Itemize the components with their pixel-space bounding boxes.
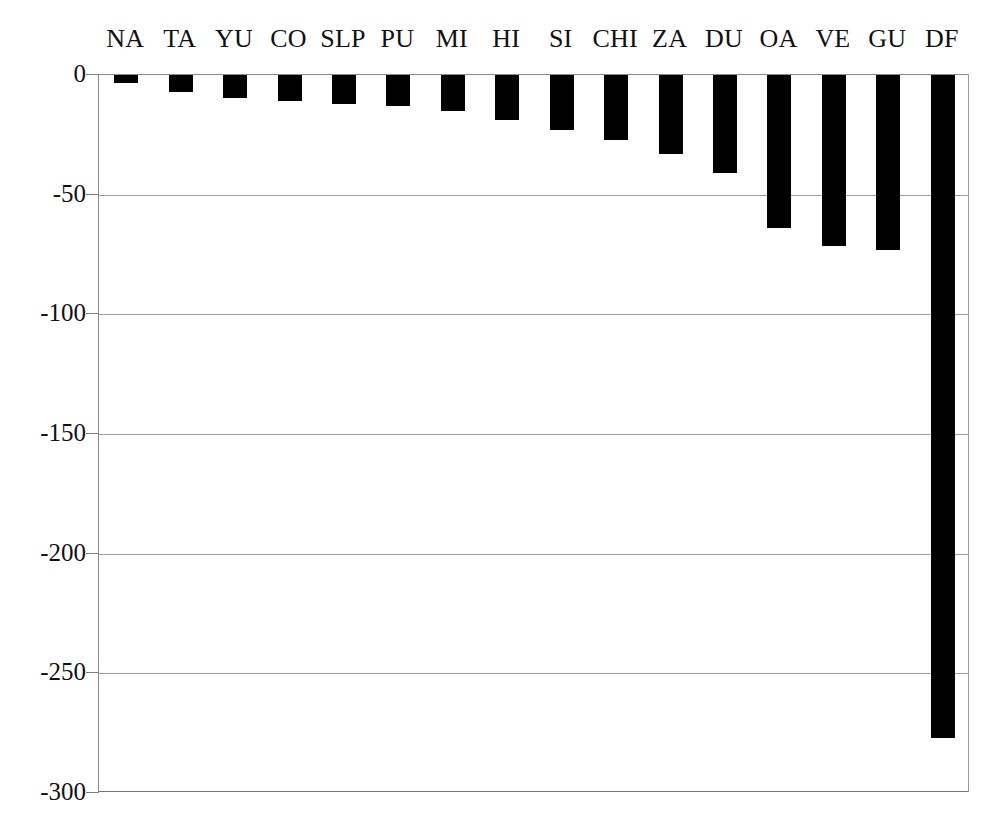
bar-yu xyxy=(223,75,247,98)
bar-chi xyxy=(604,75,628,140)
category-label-pu: PU xyxy=(370,22,424,56)
y-axis-label: -300 xyxy=(8,779,86,804)
bar-du xyxy=(713,75,737,173)
gridline xyxy=(99,314,968,315)
category-label-ta: TA xyxy=(152,22,206,56)
bar-pu xyxy=(386,75,410,106)
category-label-df: DF xyxy=(915,22,969,56)
category-label-za: ZA xyxy=(642,22,696,56)
bar-mi xyxy=(441,75,465,111)
bar-hi xyxy=(495,75,519,120)
y-axis-label: -250 xyxy=(8,659,86,684)
y-axis-label: -200 xyxy=(8,540,86,565)
gridline xyxy=(99,434,968,435)
bar-si xyxy=(550,75,574,130)
category-label-oa: OA xyxy=(751,22,805,56)
category-label-si: SI xyxy=(534,22,588,56)
category-label-hi: HI xyxy=(479,22,533,56)
y-axis-tick xyxy=(86,433,99,434)
category-label-ve: VE xyxy=(806,22,860,56)
y-axis-label: -50 xyxy=(8,181,86,206)
category-label-mi: MI xyxy=(425,22,479,56)
bar-chart: NATAYUCOSLPPUMIHISICHIZADUOAVEGUDF 0-50-… xyxy=(0,0,995,829)
category-label-yu: YU xyxy=(207,22,261,56)
bar-ta xyxy=(169,75,193,92)
bar-df xyxy=(931,75,955,738)
bar-na xyxy=(114,75,138,83)
y-axis-label: -150 xyxy=(8,420,86,445)
category-label-slp: SLP xyxy=(316,22,370,56)
category-label-gu: GU xyxy=(860,22,914,56)
y-axis: 0-50-100-150-200-250-300 xyxy=(0,0,86,829)
y-axis-tick xyxy=(86,74,99,75)
gridline xyxy=(99,554,968,555)
category-label-chi: CHI xyxy=(588,22,642,56)
bar-gu xyxy=(876,75,900,250)
category-label-na: NA xyxy=(98,22,152,56)
y-axis-tick xyxy=(86,313,99,314)
y-axis-tick xyxy=(86,194,99,195)
bar-slp xyxy=(332,75,356,104)
bar-co xyxy=(278,75,302,101)
y-axis-tick xyxy=(86,553,99,554)
plot-area xyxy=(98,74,969,792)
y-axis-label: 0 xyxy=(8,61,86,86)
y-axis-label: -100 xyxy=(8,300,86,325)
category-axis: NATAYUCOSLPPUMIHISICHIZADUOAVEGUDF xyxy=(98,22,969,64)
bar-za xyxy=(659,75,683,154)
y-axis-tick xyxy=(86,792,99,793)
category-label-du: DU xyxy=(697,22,751,56)
gridline xyxy=(99,673,968,674)
y-axis-tick xyxy=(86,672,99,673)
category-label-co: CO xyxy=(261,22,315,56)
bar-oa xyxy=(767,75,791,228)
bar-ve xyxy=(822,75,846,246)
